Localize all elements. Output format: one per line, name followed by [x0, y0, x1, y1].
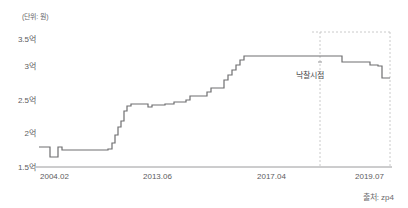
chart-container: (단위: 원) 3.5억 3억 2.5억 2억 1.5억 2004.02 201…: [0, 0, 408, 208]
x-axis-tick-label: 2013.06: [143, 172, 172, 181]
y-axis-tick-label: 2억: [2, 127, 36, 138]
bid-point-annotation-label: 낙찰시점: [296, 69, 324, 80]
y-axis-tick-label: 1.5억: [2, 161, 36, 172]
source-attribution: 출처: zp4: [363, 191, 394, 202]
x-axis-tick-label: 2004.02: [40, 172, 69, 181]
x-axis-tick-label: 2019.07: [355, 172, 384, 181]
y-axis-tick-label: 3억: [2, 60, 36, 71]
x-axis-tick-label: 2017.04: [257, 172, 286, 181]
unit-label: (단위: 원): [22, 11, 49, 21]
y-axis-tick-label: 3.5억: [2, 33, 36, 44]
price-line-series: [39, 56, 390, 157]
y-axis-tick-label: 2.5억: [2, 94, 36, 105]
